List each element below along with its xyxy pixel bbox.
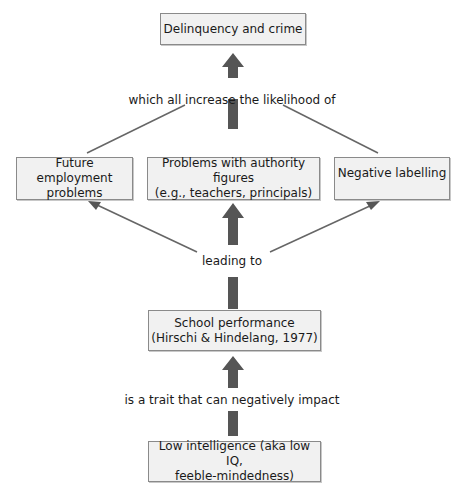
node-employment: Future employment problems [16, 157, 133, 200]
thick-arrow-to-delinquency [222, 53, 244, 129]
node-text-line2: (Hirschi & Hindelang, 1977) [151, 331, 317, 346]
edge-label-increase: which all increase the likelihood of [0, 93, 464, 107]
node-intelligence: Low intelligence (aka low IQ, feeble-min… [148, 441, 321, 482]
arrow-to-employment [95, 204, 197, 252]
node-text-line1: School performance [174, 316, 295, 331]
line-employment-to-label [87, 105, 185, 153]
arrow-to-labelling [270, 205, 372, 252]
node-text: Negative labelling [338, 166, 447, 181]
connectors [0, 0, 464, 494]
node-text-line2: feeble-mindedness) [175, 469, 294, 484]
node-authority: Problems with authority figures (e.g., t… [147, 157, 320, 200]
node-text-line1: Low intelligence (aka low IQ, [149, 439, 320, 469]
edge-label-trait: is a trait that can negatively impact [0, 393, 464, 407]
line-labelling-to-label [283, 105, 378, 153]
node-text-line1: Future employment [17, 156, 132, 186]
node-delinquency: Delinquency and crime [160, 13, 306, 45]
node-school: School performance (Hirschi & Hindelang,… [148, 310, 321, 351]
node-text: Delinquency and crime [164, 22, 303, 37]
edge-label-leading: leading to [0, 254, 464, 268]
node-text-line1: Problems with authority figures [148, 156, 319, 186]
node-text-line2: (e.g., teachers, principals) [155, 186, 312, 201]
node-labelling: Negative labelling [334, 157, 450, 200]
node-text-line2: problems [47, 186, 103, 201]
